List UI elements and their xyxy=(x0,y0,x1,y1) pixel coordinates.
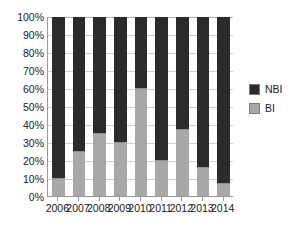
bar-segment-nbi xyxy=(135,17,148,89)
bar-segment-nbi xyxy=(197,17,210,168)
bar-group xyxy=(52,17,65,196)
y-axis-tick-label: 90% xyxy=(4,30,44,41)
legend-label: NBI xyxy=(265,84,283,95)
bar-segment-bi xyxy=(73,151,86,196)
bar-group xyxy=(197,17,210,196)
x-axis-tick-mark xyxy=(161,197,162,201)
y-axis-tick-label: 50% xyxy=(4,102,44,113)
bar-group xyxy=(135,17,148,196)
bar-segment-bi xyxy=(176,129,189,196)
x-axis-tick-label: 2014 xyxy=(211,203,234,214)
y-axis-tick-label: 20% xyxy=(4,156,44,167)
x-axis-tick-label: 2011 xyxy=(149,203,172,214)
x-axis-tick-mark xyxy=(57,197,58,201)
bar-segment-bi xyxy=(197,167,210,196)
legend-swatch-icon xyxy=(249,84,260,95)
x-axis-tick-mark xyxy=(181,197,182,201)
bar-group xyxy=(155,17,168,196)
y-axis-tick-label: 80% xyxy=(4,48,44,59)
bar-segment-nbi xyxy=(73,17,86,152)
bar-group xyxy=(114,17,127,196)
bar-group xyxy=(176,17,189,196)
chart-legend: NBIBI xyxy=(249,84,283,114)
y-axis-tick-label: 40% xyxy=(4,120,44,131)
bar-segment-nbi xyxy=(217,17,230,184)
bar-segment-bi xyxy=(93,133,106,196)
legend-swatch-icon xyxy=(249,103,260,114)
bar-segment-nbi xyxy=(93,17,106,134)
y-axis-tick-label: 100% xyxy=(4,12,44,23)
plot-area xyxy=(47,17,233,197)
x-axis-tick-mark xyxy=(78,197,79,201)
y-axis-tick-label: 10% xyxy=(4,174,44,185)
bar-segment-bi xyxy=(135,88,148,196)
bars-layer xyxy=(48,17,233,196)
y-axis-tick-label: 60% xyxy=(4,84,44,95)
bar-group xyxy=(217,17,230,196)
x-axis-tick-mark xyxy=(223,197,224,201)
bar-segment-bi xyxy=(155,160,168,196)
legend-item-bi[interactable]: BI xyxy=(249,103,283,114)
bar-group xyxy=(93,17,106,196)
bar-segment-bi xyxy=(52,178,65,196)
bar-segment-nbi xyxy=(176,17,189,130)
x-axis-tick-mark xyxy=(99,197,100,201)
y-axis-tick-label: 30% xyxy=(4,138,44,149)
bar-segment-nbi xyxy=(52,17,65,179)
legend-label: BI xyxy=(265,103,275,114)
bar-segment-nbi xyxy=(114,17,127,143)
x-axis-tick-mark xyxy=(202,197,203,201)
y-axis-tick-label: 0% xyxy=(4,192,44,203)
x-axis-tick-mark xyxy=(140,197,141,201)
bar-segment-bi xyxy=(114,142,127,196)
legend-item-nbi[interactable]: NBI xyxy=(249,84,283,95)
x-axis-tick-label: 2010 xyxy=(128,203,151,214)
x-axis-tick-mark xyxy=(119,197,120,201)
bar-segment-nbi xyxy=(155,17,168,161)
bar-group xyxy=(73,17,86,196)
bar-segment-bi xyxy=(217,183,230,196)
stacked-bar-chart: 0%10%20%30%40%50%60%70%80%90%100% 200620… xyxy=(0,0,289,226)
y-axis-tick-label: 70% xyxy=(4,66,44,77)
